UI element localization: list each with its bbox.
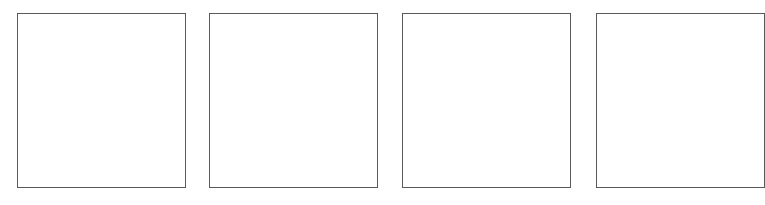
empty-box-2	[209, 13, 378, 188]
empty-box-4	[596, 13, 765, 188]
empty-box-1	[17, 13, 186, 188]
empty-box-3	[402, 13, 571, 188]
